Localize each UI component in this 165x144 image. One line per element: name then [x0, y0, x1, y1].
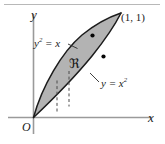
x-axis-label: x	[148, 111, 154, 124]
curve-upper-exponent: 2	[39, 36, 42, 43]
figure-region-between-curves: y x O (1, 1) y2 = x y = x2 ℜ	[0, 0, 165, 144]
leader-line-lower-label	[90, 73, 99, 82]
curve-upper-rest: = x	[45, 37, 60, 49]
origin-label: O	[22, 121, 31, 133]
marked-point-upper-curve	[90, 33, 94, 37]
corner-point-label: (1, 1)	[121, 12, 145, 23]
curve-label-y-squared-equals-x: y2 = x	[34, 38, 60, 49]
curve-label-y-equals-x-squared: y = x2	[101, 78, 127, 89]
curve-lower-exponent: 2	[124, 76, 127, 83]
y-axis-label: y	[31, 8, 37, 21]
region-label: ℜ	[69, 57, 80, 70]
marked-point-lower-curve	[101, 54, 105, 58]
curve-lower-base: y = x	[101, 77, 124, 89]
